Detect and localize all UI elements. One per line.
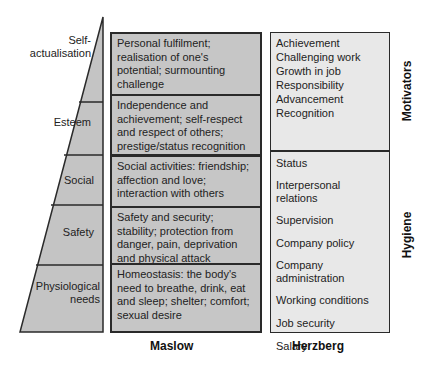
- hygiene-item: Supervision: [276, 214, 333, 227]
- hygiene-item: relations: [276, 192, 318, 205]
- row-line: Safety and security;: [117, 211, 255, 225]
- row-line: interaction with others: [117, 187, 255, 201]
- row-line: sexual desire: [117, 309, 255, 323]
- hygiene-item: Company policy: [276, 237, 354, 250]
- pyramid-label-esteem: Esteem: [54, 116, 91, 129]
- motivator-item: Challenging work: [276, 51, 360, 64]
- maslow-table: Personal fulfilment; realisation of one'…: [110, 32, 262, 333]
- maslow-row-safety: Safety and security; stability; protecti…: [112, 206, 260, 264]
- label-line: Social: [64, 174, 94, 187]
- row-line: danger, pain, deprivation: [117, 238, 255, 252]
- label-line: Esteem: [54, 116, 91, 129]
- motivator-item: Advancement: [276, 93, 343, 106]
- maslow-row-physiological: Homeostasis: the body's need to breathe,…: [112, 263, 260, 331]
- hygiene-item: Status: [276, 157, 307, 170]
- motivator-item: Achievement: [276, 37, 340, 50]
- herzberg-heading: Herzberg: [292, 339, 344, 353]
- maslow-row-esteem: Independence and achievement; self-respe…: [112, 94, 260, 156]
- hygiene-item: Working conditions: [276, 294, 369, 307]
- maslow-row-self-actualisation: Personal fulfilment; realisation of one'…: [112, 34, 260, 96]
- pyramid-label-self-actualisation: Self- actualisation: [30, 34, 91, 60]
- hygiene-item: Company: [276, 259, 323, 272]
- motivator-item: Recognition: [276, 107, 334, 120]
- row-line: Homeostasis: the body's: [117, 268, 255, 282]
- hygiene-item: Interpersonal: [276, 179, 340, 192]
- row-line: stability; protection from: [117, 225, 255, 239]
- motivator-item: Responsibility: [276, 79, 344, 92]
- row-line: need to breathe, drink, eat: [117, 282, 255, 296]
- row-line: challenge: [117, 78, 255, 92]
- row-line: potential; surmounting: [117, 64, 255, 78]
- label-line: Safety: [63, 226, 94, 239]
- herzberg-table: Achievement Challenging work Growth in j…: [270, 32, 390, 333]
- label-line: needs: [36, 293, 100, 306]
- hygiene-label: Hygiene: [400, 210, 414, 260]
- row-line: Social activities: friendship;: [117, 160, 255, 174]
- row-line: Personal fulfilment;: [117, 37, 255, 51]
- row-line: and respect of others;: [117, 126, 255, 140]
- label-line: Self-: [30, 34, 91, 47]
- motivators-section: Achievement Challenging work Growth in j…: [271, 33, 389, 151]
- hygiene-section: Status Interpersonal relations Supervisi…: [271, 150, 389, 332]
- hygiene-item: Job security: [276, 317, 335, 330]
- pyramid-label-social: Social: [64, 174, 94, 187]
- label-line: actualisation: [30, 47, 91, 60]
- row-line: prestige/status recognition: [117, 140, 255, 154]
- motivator-item: Growth in job: [276, 65, 341, 78]
- row-line: realisation of one's: [117, 51, 255, 65]
- row-line: and sleep; shelter; comfort;: [117, 295, 255, 309]
- pyramid-label-safety: Safety: [63, 226, 94, 239]
- motivators-label: Motivators: [400, 58, 414, 124]
- pyramid-label-physiological: Physiological needs: [36, 280, 100, 306]
- row-line: affection and love;: [117, 174, 255, 188]
- hygiene-item: administration: [276, 272, 344, 285]
- maslow-row-social: Social activities: friendship; affection…: [112, 154, 260, 206]
- row-line: achievement; self-respect: [117, 113, 255, 127]
- maslow-heading: Maslow: [150, 339, 193, 353]
- row-line: Independence and: [117, 99, 255, 113]
- label-line: Physiological: [36, 280, 100, 293]
